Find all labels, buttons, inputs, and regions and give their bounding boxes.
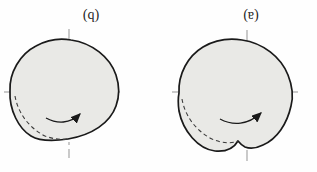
cam-body	[10, 39, 119, 140]
panel-a	[172, 30, 298, 161]
cam-body	[178, 39, 292, 151]
figure-page: (b) (a)	[0, 0, 317, 172]
figure-canvas	[0, 0, 317, 172]
panel-b	[4, 29, 123, 158]
